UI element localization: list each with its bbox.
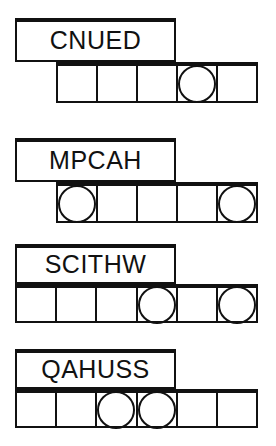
answer-cell[interactable] (218, 186, 256, 221)
scrambled-word-box: MPCAH (15, 138, 176, 182)
answer-cell-row (15, 389, 258, 428)
answer-cell[interactable] (97, 393, 137, 426)
circle-icon (97, 391, 135, 429)
circle-icon (218, 185, 256, 223)
answer-cell[interactable] (58, 66, 98, 101)
answer-cell[interactable] (58, 186, 98, 221)
answer-cell[interactable] (97, 288, 137, 321)
answer-cell[interactable] (218, 66, 256, 101)
scrambled-word-text: MPCAH (49, 148, 142, 173)
answer-cell[interactable] (17, 393, 57, 426)
answer-cell-row (15, 284, 258, 323)
circle-icon (138, 286, 176, 324)
answer-cell[interactable] (138, 66, 178, 101)
answer-cell[interactable] (178, 393, 218, 426)
answer-cell-row (56, 182, 258, 223)
answer-cell[interactable] (218, 288, 256, 321)
answer-cell[interactable] (17, 288, 57, 321)
scrambled-word-text: QAHUSS (41, 357, 150, 382)
circle-icon (138, 391, 176, 429)
answer-cell[interactable] (178, 288, 218, 321)
answer-cell[interactable] (98, 186, 138, 221)
answer-cell[interactable] (57, 393, 97, 426)
scrambled-word-box: QAHUSS (15, 349, 176, 389)
word-scramble-sheet: CNUEDMPCAHSCITHWQAHUSS (0, 0, 276, 446)
answer-cell[interactable] (218, 393, 256, 426)
circle-icon (58, 185, 96, 223)
answer-cell[interactable] (178, 66, 218, 101)
scrambled-word-text: CNUED (50, 28, 141, 53)
scrambled-word-text: SCITHW (45, 252, 147, 277)
answer-cell[interactable] (57, 288, 97, 321)
answer-cell[interactable] (178, 186, 218, 221)
answer-cell[interactable] (138, 393, 178, 426)
scrambled-word-box: SCITHW (15, 244, 176, 284)
scrambled-word-box: CNUED (15, 18, 176, 62)
answer-cell[interactable] (138, 288, 178, 321)
circle-icon (178, 65, 216, 103)
circle-icon (218, 286, 256, 324)
answer-cell[interactable] (98, 66, 138, 101)
answer-cell-row (56, 62, 258, 103)
answer-cell[interactable] (138, 186, 178, 221)
